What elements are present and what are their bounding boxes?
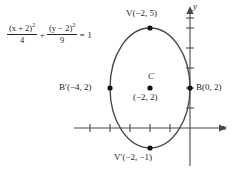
label-vertex-bottom: V′(−2, −1) — [114, 153, 152, 162]
equation-numerator-y: (y − 2)2 — [47, 24, 77, 34]
label-vertex-top: V(−2, 5) — [126, 9, 157, 18]
point-covertex-left — [107, 85, 112, 90]
point-vertex-bottom — [147, 145, 152, 150]
equation-numerator-x-text: (x + 2) — [9, 23, 32, 33]
point-covertex-right — [187, 85, 192, 90]
ellipse-figure: (x + 2)2 4 + (y − 2)2 9 = 1 V(−2, 5) V′(… — [0, 0, 237, 180]
equation-numerator-y-exponent: 2 — [72, 22, 75, 28]
ellipse-equation: (x + 2)2 4 + (y − 2)2 9 = 1 — [6, 24, 93, 45]
equation-plus-operator: + — [40, 29, 45, 40]
label-covertex-right: B(0, 2) — [196, 83, 222, 92]
label-covertex-left: B′(−4, 2) — [59, 83, 92, 92]
label-center-letter: C — [148, 72, 154, 81]
equation-denominator-y: 9 — [47, 34, 77, 45]
equation-numerator-x-exponent: 2 — [32, 22, 35, 28]
x-axis-label: x — [222, 123, 226, 132]
equation-fraction-y: (y − 2)2 9 — [47, 24, 77, 45]
equation-right-hand-side: 1 — [88, 29, 92, 40]
equation-numerator-y-text: (y − 2) — [49, 23, 72, 33]
equation-numerator-x: (x + 2)2 — [7, 24, 37, 34]
point-center — [147, 85, 152, 90]
equation-denominator-x: 4 — [7, 34, 37, 45]
point-vertex-top — [147, 25, 152, 30]
equation-equals-sign: = — [80, 29, 85, 40]
label-center-coords: (−2, 2) — [133, 93, 158, 102]
equation-fraction-x: (x + 2)2 4 — [7, 24, 37, 45]
y-axis-label: y — [193, 2, 197, 11]
